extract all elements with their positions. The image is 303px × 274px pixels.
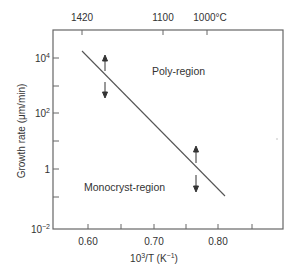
monocryst-region-label: Monocryst-region: [84, 181, 165, 193]
x-axis-labels: 0.60 0.70 0.80: [78, 236, 228, 247]
speck-mark: [276, 138, 278, 140]
y-label-1e2: 102: [35, 107, 50, 119]
poly-region-label: Poly-region: [152, 65, 205, 77]
growth-rate-chart: 1420 1100 1000°C 0.60 0.70 0.80 103/T (K…: [0, 0, 303, 274]
y-label-1: 1: [44, 164, 50, 175]
top-axis-ticks: [82, 30, 207, 35]
top-axis-labels: 1420 1100 1000°C: [71, 12, 227, 23]
top-label-1100: 1100: [152, 12, 174, 23]
top-label-1420: 1420: [71, 12, 94, 23]
y-axis-ticks: [53, 58, 59, 197]
y-axis-labels: 104 102 1 10−2: [31, 52, 51, 235]
plot-frame: [53, 30, 283, 229]
top-label-1000: 1000°C: [193, 12, 226, 23]
y-label-1e4: 104: [35, 52, 50, 64]
x-label-0.60: 0.60: [78, 236, 98, 247]
x-axis-ticks: [88, 224, 252, 229]
x-axis-title: 103/T (K−1): [130, 252, 178, 264]
y-label-1e-2: 10−2: [31, 223, 50, 235]
x-label-0.80: 0.80: [208, 236, 228, 247]
y-axis-title: Growth rate (μm/min): [16, 84, 27, 179]
x-label-0.70: 0.70: [144, 236, 164, 247]
